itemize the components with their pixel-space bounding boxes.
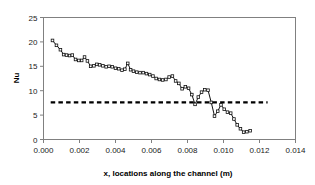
data-point-marker — [51, 39, 54, 42]
data-point-marker — [105, 65, 108, 68]
x-axis-title: x, locations along the channel (m) — [104, 169, 233, 178]
data-point-marker — [236, 124, 239, 127]
data-point-marker — [121, 69, 124, 72]
x-tick-label: 0.014 — [285, 146, 306, 155]
y-tick-label: 20 — [29, 38, 38, 47]
data-point-marker — [223, 108, 226, 111]
data-point-marker — [71, 54, 74, 57]
x-tick-label: 0.012 — [249, 146, 270, 155]
data-point-marker — [98, 64, 101, 67]
data-point-marker — [62, 53, 65, 56]
y-tick-label: 25 — [29, 14, 38, 23]
data-point-marker — [184, 86, 187, 89]
data-point-marker — [139, 71, 142, 74]
data-point-marker — [142, 71, 145, 74]
x-tick-label: 0.004 — [105, 146, 126, 155]
data-point-marker — [249, 129, 252, 132]
data-point-marker — [124, 68, 127, 71]
x-tick-label: 0.010 — [213, 146, 234, 155]
data-point-marker — [161, 79, 164, 82]
x-tick-label: 0.006 — [141, 146, 162, 155]
data-point-marker — [83, 56, 86, 59]
data-point-marker — [165, 78, 168, 81]
data-point-marker — [89, 65, 92, 68]
chart-background — [0, 0, 315, 185]
data-point-marker — [171, 75, 174, 78]
data-point-marker — [65, 54, 68, 57]
data-point-marker — [168, 76, 171, 79]
data-point-marker — [178, 82, 181, 85]
data-point-marker — [108, 65, 111, 68]
x-tick-label: 0.008 — [177, 146, 198, 155]
data-point-marker — [95, 63, 98, 66]
data-point-marker — [242, 131, 245, 134]
data-point-marker — [226, 111, 229, 114]
data-point-marker — [174, 80, 177, 83]
chart-container: 0.0000.0020.0040.0060.0080.0100.0120.014… — [0, 0, 315, 185]
data-point-marker — [216, 110, 219, 113]
y-tick-label: 10 — [29, 87, 38, 96]
data-point-marker — [220, 104, 223, 107]
data-point-marker — [194, 103, 197, 106]
data-point-marker — [55, 44, 58, 47]
data-point-marker — [152, 75, 155, 78]
data-point-marker — [200, 91, 203, 94]
data-point-marker — [77, 59, 80, 62]
data-point-marker — [181, 87, 184, 90]
data-point-marker — [203, 88, 206, 91]
data-point-marker — [207, 89, 210, 92]
data-point-marker — [117, 67, 120, 70]
data-point-marker — [187, 87, 190, 90]
x-tick-label: 0.000 — [33, 146, 54, 155]
data-point-marker — [129, 68, 132, 71]
data-point-marker — [233, 118, 236, 121]
data-point-marker — [246, 130, 249, 133]
data-point-marker — [155, 77, 158, 80]
data-point-marker — [80, 59, 83, 62]
data-point-marker — [197, 96, 200, 99]
nusselt-number-line-chart: 0.0000.0020.0040.0060.0080.0100.0120.014… — [0, 0, 315, 185]
data-point-marker — [191, 93, 194, 96]
data-point-marker — [68, 54, 71, 57]
data-point-marker — [148, 73, 151, 76]
y-tick-label: 0 — [33, 136, 38, 145]
data-point-marker — [86, 60, 89, 63]
x-tick-label: 0.002 — [69, 146, 90, 155]
y-axis-title: Nu — [12, 73, 21, 84]
data-point-marker — [111, 65, 114, 68]
data-point-marker — [59, 48, 62, 51]
data-point-marker — [126, 62, 129, 65]
data-point-marker — [145, 72, 148, 75]
data-point-marker — [74, 58, 77, 61]
data-point-marker — [210, 101, 213, 104]
data-point-marker — [158, 78, 161, 81]
data-point-marker — [135, 71, 138, 74]
data-point-marker — [132, 70, 135, 73]
data-point-marker — [102, 65, 105, 68]
data-point-marker — [239, 127, 242, 130]
y-tick-label: 5 — [33, 111, 38, 120]
data-point-marker — [114, 67, 117, 70]
y-tick-label: 15 — [29, 62, 38, 71]
data-point-marker — [93, 65, 96, 68]
data-point-marker — [229, 112, 232, 115]
data-point-marker — [213, 115, 216, 118]
